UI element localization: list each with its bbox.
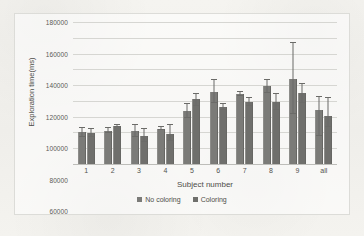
bar[interactable] [87, 133, 95, 164]
error-bar-cap-upper [325, 97, 331, 98]
legend-item[interactable]: Coloring [193, 196, 227, 203]
error-bar-cap-upper [79, 127, 85, 128]
error-bar [328, 98, 329, 127]
y-axis-title: Exploration time(ms) [27, 58, 36, 127]
error-bar-cap-lower [167, 140, 173, 141]
error-bar-cap-lower [316, 135, 322, 136]
error-bar-cap-upper [220, 103, 226, 104]
legend-swatch [193, 197, 198, 202]
legend-item[interactable]: No coloring [137, 196, 180, 203]
x-axis-tick-label: 7 [231, 167, 257, 174]
bar-group [311, 22, 337, 164]
bar-column[interactable] [131, 131, 139, 164]
bar-group [231, 22, 257, 164]
error-bar-cap-lower [79, 136, 85, 137]
error-bar-cap-upper [273, 93, 279, 94]
error-bar-cap-lower [290, 113, 296, 114]
bar-column[interactable] [298, 93, 306, 164]
bar-column[interactable] [219, 107, 227, 164]
error-bar-cap-lower [193, 105, 199, 106]
bar[interactable] [113, 126, 121, 164]
x-axis-baseline: 0 [73, 164, 337, 165]
bar[interactable] [104, 131, 112, 164]
error-bar-cap-upper [264, 79, 270, 80]
x-axis-tick-label: 5 [179, 167, 205, 174]
bar[interactable] [272, 102, 280, 164]
legend-label: Coloring [201, 196, 227, 203]
x-axis-tick-label: 2 [99, 167, 125, 174]
error-bar-cap-lower [88, 136, 94, 137]
error-bar-cap-upper [193, 93, 199, 94]
error-bar [275, 94, 276, 111]
y-axis-tick-label: 60000 [49, 208, 68, 215]
error-bar-cap-lower [220, 109, 226, 110]
x-axis-tick-label: 3 [126, 167, 152, 174]
error-bar-cap-upper [184, 103, 190, 104]
error-bar-cap-lower [264, 92, 270, 93]
error-bar [187, 104, 188, 118]
legend-label: No coloring [145, 196, 180, 203]
bar-column[interactable] [210, 92, 218, 164]
error-bar-cap-upper [246, 97, 252, 98]
error-bar-cap-upper [88, 128, 94, 129]
bar-column[interactable] [78, 132, 86, 164]
error-bar-cap-upper [167, 124, 173, 125]
bar[interactable] [183, 111, 191, 164]
x-axis-tick-label: all [311, 167, 337, 174]
bar[interactable] [157, 129, 165, 165]
bar-column[interactable] [324, 116, 332, 164]
bar-column[interactable] [192, 99, 200, 164]
bar-group [99, 22, 125, 164]
bar-group [205, 22, 231, 164]
bar-column[interactable] [263, 86, 271, 164]
error-bar-cap-upper [237, 91, 243, 92]
error-bar [169, 125, 170, 142]
y-axis-tick-label: 120000 [46, 113, 68, 120]
bar-column[interactable] [157, 129, 165, 165]
bar-column[interactable] [166, 134, 174, 164]
bar-group [179, 22, 205, 164]
error-bar-cap-lower [325, 126, 331, 127]
bar[interactable] [192, 99, 200, 164]
bars-layer [73, 22, 337, 164]
bar[interactable] [236, 94, 244, 164]
x-axis-tick-label: 4 [152, 167, 178, 174]
bar-column[interactable] [236, 94, 244, 164]
bar-group [258, 22, 284, 164]
x-axis-title: Subject number [73, 180, 337, 189]
error-bar [319, 97, 320, 136]
y-axis-tick-label: 140000 [46, 82, 68, 89]
x-axis-tick-label: 1 [73, 167, 99, 174]
error-bar [301, 84, 302, 104]
error-bar-cap-lower [158, 129, 164, 130]
bar-column[interactable] [113, 126, 121, 164]
y-axis-tick-label: 160000 [46, 50, 68, 57]
bar-column[interactable] [183, 111, 191, 164]
bar-column[interactable] [289, 79, 297, 164]
error-bar-cap-lower [273, 109, 279, 110]
error-bar-cap-upper [132, 124, 138, 125]
chart-frame: Exploration time(ms) 1800001600001400001… [14, 13, 350, 215]
bar-column[interactable] [140, 136, 148, 164]
error-bar-cap-upper [290, 42, 296, 43]
bar-column[interactable] [87, 133, 95, 164]
error-bar-cap-lower [114, 126, 120, 127]
error-bar-cap-lower [132, 136, 138, 137]
y-axis-tick-label: 80000 [49, 176, 68, 183]
y-axis-tick-label: 100000 [46, 145, 68, 152]
plot-area: 1800001600001400001200001000008000060000… [73, 22, 337, 164]
chart-legend: No coloringColoring [15, 196, 349, 203]
bar-group [284, 22, 310, 164]
error-bar [292, 43, 293, 114]
x-axis-tick-labels: 123456789all [73, 167, 337, 174]
bar-column[interactable] [272, 102, 280, 164]
bar-column[interactable] [245, 102, 253, 164]
bar-column[interactable] [104, 131, 112, 164]
bar[interactable] [219, 107, 227, 164]
error-bar-cap-lower [299, 102, 305, 103]
bar[interactable] [245, 102, 253, 164]
bar-column[interactable] [315, 110, 323, 164]
bar[interactable] [298, 93, 306, 164]
error-bar-cap-lower [184, 117, 190, 118]
bar[interactable] [263, 86, 271, 164]
